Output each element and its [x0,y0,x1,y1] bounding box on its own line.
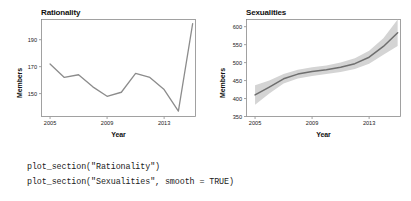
svg-text:2005: 2005 [249,120,261,126]
svg-text:500: 500 [233,60,242,66]
svg-text:2009: 2009 [101,120,113,126]
figure-area: Rationality Members Year 150170190 20052… [0,0,411,145]
x-tick-labels-sexualities: 200520092013 [249,117,376,127]
plot-rationality: 150170190 200520092013 [0,0,205,145]
svg-text:2013: 2013 [363,120,375,126]
plot-sexualities: 350400450500550600 200520092013 [206,0,411,145]
svg-text:2013: 2013 [158,120,170,126]
svg-text:190: 190 [28,37,37,43]
svg-text:350: 350 [233,114,242,120]
svg-text:150: 150 [28,91,37,97]
chart-panel-rationality: Rationality Members Year 150170190 20052… [0,0,205,145]
svg-text:600: 600 [233,24,242,30]
svg-text:450: 450 [233,78,242,84]
code-block: plot_section("Rationality") plot_section… [0,160,411,190]
svg-text:550: 550 [233,42,242,48]
y-tick-labels-sexualities: 350400450500550600 [233,24,247,120]
code-line-1: plot_section("Rationality") [0,160,411,175]
chart-panel-sexualities: Sexualities Members Year 350400450500550… [206,0,411,145]
svg-text:2005: 2005 [44,120,56,126]
svg-text:2009: 2009 [306,120,318,126]
x-tick-labels-rationality: 200520092013 [44,117,171,127]
svg-text:400: 400 [233,96,242,102]
y-tick-labels-rationality: 150170190 [28,37,42,97]
svg-text:170: 170 [28,64,37,70]
code-line-2: plot_section("Sexualities", smooth = TRU… [0,175,411,190]
